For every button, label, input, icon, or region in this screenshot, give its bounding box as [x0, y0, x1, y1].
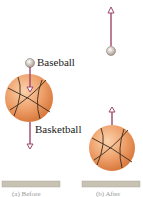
- ground-b: [82, 181, 140, 187]
- basketball-icon-after: [89, 125, 135, 171]
- basketball-velocity-arrow: [27, 122, 33, 149]
- collision-diagram: [0, 0, 143, 197]
- baseball-label: Baseball: [37, 56, 75, 68]
- ground-a: [2, 181, 60, 187]
- baseball-velocity-arrow-after: [108, 7, 114, 46]
- baseball-icon: [26, 59, 35, 68]
- caption-a: (a) Before: [12, 190, 41, 197]
- basketball-icon: [5, 74, 53, 122]
- basketball-velocity-arrow-after: [109, 107, 115, 125]
- baseball-icon-after: [107, 47, 116, 56]
- basketball-label: Basketball: [35, 123, 81, 135]
- caption-b: (b) After: [96, 190, 120, 197]
- panel-b: [82, 7, 140, 187]
